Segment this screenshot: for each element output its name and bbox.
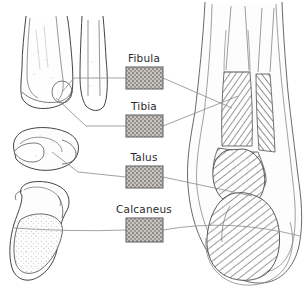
ankle-foot-anterior-illustration — [187, 2, 301, 285]
label-talus[interactable]: Talus — [126, 151, 163, 188]
label-fibula[interactable]: Fibula — [126, 52, 163, 89]
swatch-calcaneus[interactable] — [126, 218, 163, 242]
label-talus-text: Talus — [129, 151, 157, 163]
label-tibia-text: Tibia — [130, 100, 157, 112]
label-calcaneus-text: Calcaneus — [116, 203, 172, 215]
calcaneus-region — [207, 193, 280, 281]
distal-leg-bone-pair-illustration — [21, 16, 107, 111]
swatch-fibula[interactable] — [126, 67, 163, 89]
talus-bone-illustration — [14, 128, 79, 171]
swatch-tibia[interactable] — [126, 115, 163, 137]
anatomy-figure: Fibula Tibia Talus Calcaneus — [0, 0, 305, 290]
swatch-talus[interactable] — [126, 166, 163, 188]
label-fibula-text: Fibula — [128, 52, 160, 64]
